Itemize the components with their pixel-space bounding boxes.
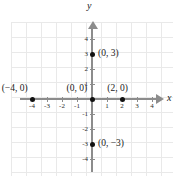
y-axis-tick-mark — [90, 84, 95, 85]
x-axis-tick-label: -4 — [25, 102, 39, 110]
x-axis-tick-label: 1 — [100, 102, 114, 110]
plotted-point — [90, 142, 95, 147]
plotted-point — [90, 97, 95, 102]
x-axis-tick-label: 2 — [115, 102, 129, 110]
point-coordinate-label: (−4, 0) — [2, 83, 28, 93]
x-axis-tick-label: 4 — [145, 102, 159, 110]
y-axis-tick-label: -1 — [74, 110, 88, 118]
y-axis-tick-mark — [90, 69, 95, 70]
gridline-vertical — [11, 22, 12, 176]
point-coordinate-label: (0, 0) — [67, 83, 88, 93]
y-axis-tick-mark — [90, 39, 95, 40]
y-axis-tick-label: -3 — [74, 140, 88, 148]
point-coordinate-label: (2, 0) — [107, 83, 128, 93]
y-axis-tick-mark — [90, 159, 95, 160]
point-coordinate-label: (0, 3) — [98, 48, 119, 58]
y-axis-tick-mark — [90, 114, 95, 115]
y-axis-tick-label: 4 — [74, 35, 88, 43]
y-axis-tick-label: -4 — [74, 155, 88, 163]
x-axis-tick-label: -1 — [70, 102, 84, 110]
x-axis-tick-label: -3 — [40, 102, 54, 110]
y-axis-arrow-icon — [88, 21, 98, 29]
y-axis-tick-label: -2 — [74, 125, 88, 133]
y-axis-tick-label: 2 — [74, 65, 88, 73]
x-axis-tick-label: 3 — [130, 102, 144, 110]
plotted-point — [30, 97, 35, 102]
gridline-horizontal — [11, 172, 173, 173]
x-axis-label: x — [167, 92, 171, 103]
plotted-point — [120, 97, 125, 102]
y-axis-label: y — [87, 0, 91, 11]
y-axis-tick-mark — [90, 129, 95, 130]
y-axis-tick-label: 3 — [74, 50, 88, 58]
x-axis-tick-label: -2 — [55, 102, 69, 110]
point-coordinate-label: (0, −3) — [98, 138, 124, 148]
coordinate-plane-figure: x y -4-3-2-112344321-1-2-3-4 (−4, 0)(0, … — [0, 0, 189, 193]
plotted-point — [90, 52, 95, 57]
